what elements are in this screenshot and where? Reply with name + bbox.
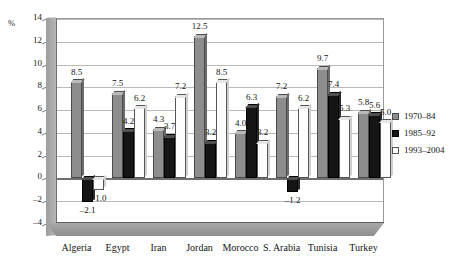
bar-slot: 5.3 bbox=[339, 19, 350, 224]
bar-face bbox=[380, 122, 391, 179]
bar-slot: 6.2 bbox=[134, 19, 145, 224]
bar[interactable] bbox=[369, 115, 380, 179]
bar-slot: 4.2 bbox=[123, 19, 134, 224]
legend: 1970–841985–921993–2004 bbox=[392, 112, 462, 155]
bar[interactable] bbox=[112, 93, 123, 178]
bar[interactable] bbox=[123, 131, 134, 179]
legend-swatch-icon bbox=[392, 147, 399, 154]
bar-group: 4.06.33.2 bbox=[231, 19, 272, 224]
bar-value-label: 6.2 bbox=[134, 94, 145, 103]
bar-group-bars: 4.06.33.2 bbox=[231, 19, 272, 224]
bar-slot: 3.7 bbox=[164, 19, 175, 224]
bar-value-label: 7.2 bbox=[175, 82, 186, 91]
bar-slot: 7.2 bbox=[276, 19, 287, 224]
bar-value-label: 4.3 bbox=[153, 115, 164, 124]
x-axis-category-label: Turkey bbox=[343, 242, 384, 258]
bar-side-face bbox=[268, 138, 270, 176]
bar-side-face bbox=[145, 104, 147, 176]
bar-slot: 5.0 bbox=[380, 19, 391, 224]
bar[interactable] bbox=[380, 122, 391, 179]
bar[interactable] bbox=[216, 82, 227, 179]
bar-value-label: 3.2 bbox=[257, 128, 268, 137]
bar-slot: –1.0 bbox=[93, 19, 104, 224]
bar-face bbox=[339, 118, 350, 178]
x-axis-category-label: Morocco bbox=[220, 242, 261, 258]
bar-value-label: 6.3 bbox=[246, 93, 257, 102]
legend-item[interactable]: 1985–92 bbox=[392, 129, 462, 138]
bar[interactable] bbox=[339, 118, 350, 178]
legend-item-label: 1985–92 bbox=[404, 129, 436, 138]
bar-value-label: 5.0 bbox=[380, 108, 391, 117]
x-axis-labels: AlgeriaEgyptIranJordanMoroccoS. ArabiaTu… bbox=[56, 242, 384, 258]
bar-slot: 4.3 bbox=[153, 19, 164, 224]
bar-face bbox=[194, 36, 205, 178]
bar-face bbox=[246, 107, 257, 179]
bar[interactable] bbox=[93, 178, 104, 189]
bar-group-bars: 5.85.65.0 bbox=[354, 19, 395, 224]
bar-value-label: –1.0 bbox=[91, 194, 107, 203]
bar-group: 12.53.28.5 bbox=[190, 19, 231, 224]
bar[interactable] bbox=[358, 112, 369, 178]
bar-face bbox=[358, 112, 369, 178]
x-axis-category-label: Tunisia bbox=[302, 242, 343, 258]
legend-item[interactable]: 1993–2004 bbox=[392, 146, 462, 155]
y-axis-tick-label: 10 bbox=[33, 59, 42, 68]
x-axis-category-label: Egypt bbox=[97, 242, 138, 258]
y-axis-tick-label: 14 bbox=[33, 13, 42, 22]
bar[interactable] bbox=[235, 133, 246, 179]
bar-group-bars: 12.53.28.5 bbox=[190, 19, 231, 224]
bar-value-label: 5.3 bbox=[339, 104, 350, 113]
bar-value-label: 5.8 bbox=[358, 98, 369, 107]
bar[interactable] bbox=[287, 178, 298, 192]
bar-value-label: 4.2 bbox=[123, 117, 134, 126]
bar[interactable] bbox=[134, 108, 145, 179]
bar[interactable] bbox=[328, 94, 339, 178]
bar[interactable] bbox=[276, 96, 287, 178]
bar-value-label: 7.5 bbox=[112, 79, 123, 88]
bar-face bbox=[164, 136, 175, 178]
bar-slot: 3.2 bbox=[205, 19, 216, 224]
bar[interactable] bbox=[298, 108, 309, 179]
bar-face bbox=[134, 108, 145, 179]
bar[interactable] bbox=[175, 96, 186, 178]
bar-group: 8.5–2.1–1.0 bbox=[67, 19, 108, 224]
bar-slot: 5.8 bbox=[358, 19, 369, 224]
bar-slot: 6.2 bbox=[298, 19, 309, 224]
bar-group-bars: 4.33.77.2 bbox=[149, 19, 190, 224]
bar[interactable] bbox=[194, 36, 205, 178]
y-axis-tick-label: –2 bbox=[33, 195, 42, 204]
legend-item[interactable]: 1970–84 bbox=[392, 112, 462, 121]
bar[interactable] bbox=[205, 142, 216, 178]
bar-chart: % 14121086420–2–4 8.5–2.1–1.07.54.26.24.… bbox=[0, 0, 463, 272]
bar-face bbox=[369, 115, 380, 179]
bar[interactable] bbox=[257, 142, 268, 178]
bar-group: 9.77.45.3 bbox=[313, 19, 354, 224]
bar-face bbox=[123, 131, 134, 179]
bar-groups: 8.5–2.1–1.07.54.26.24.33.77.212.53.28.54… bbox=[67, 19, 395, 224]
bar-value-label: 8.5 bbox=[216, 68, 227, 77]
bar[interactable] bbox=[164, 136, 175, 178]
bar-face bbox=[175, 96, 186, 178]
bar-group: 4.33.77.2 bbox=[149, 19, 190, 224]
bar[interactable] bbox=[246, 107, 257, 179]
bar-value-label: 8.5 bbox=[71, 68, 82, 77]
bar[interactable] bbox=[317, 68, 328, 178]
bar[interactable] bbox=[71, 82, 82, 179]
bar-group: 7.2–1.26.2 bbox=[272, 19, 313, 224]
bar-slot: 8.5 bbox=[71, 19, 82, 224]
bar-slot: 12.5 bbox=[194, 19, 205, 224]
y-axis-tick-label: –4 bbox=[33, 218, 42, 227]
bar-side-face bbox=[186, 93, 188, 176]
bar-face bbox=[257, 142, 268, 178]
plot-frame: 8.5–2.1–1.07.54.26.24.33.77.212.53.28.54… bbox=[46, 18, 384, 236]
bar-face bbox=[93, 178, 104, 189]
bar-side-face bbox=[309, 104, 311, 176]
bar-group-bars: 9.77.45.3 bbox=[313, 19, 354, 224]
bar-face bbox=[216, 82, 227, 179]
bar-value-label: 5.6 bbox=[369, 101, 380, 110]
bar-face bbox=[205, 142, 216, 178]
bar-slot: 3.2 bbox=[257, 19, 268, 224]
bar-face bbox=[71, 82, 82, 179]
bar-value-label: 6.2 bbox=[298, 94, 309, 103]
bar-slot: –1.2 bbox=[287, 19, 298, 224]
